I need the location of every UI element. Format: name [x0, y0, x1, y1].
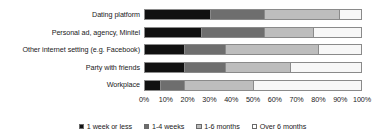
stacked-bar [144, 27, 362, 38]
bar-segment-1-4-weeks [184, 45, 225, 54]
category-label: Dating platform [0, 11, 144, 19]
legend-item-1-week-or-less: 1 week or less [79, 122, 132, 131]
legend-item-1-4-weeks: 1-4 weeks [144, 122, 184, 131]
axis-tick-label: 70% [290, 95, 304, 104]
bar-segment-over-6-months [253, 81, 361, 90]
stacked-bar-chart: Dating platform Personal ad, agency, Min… [0, 0, 385, 140]
bar-segment-1-week-or-less [145, 63, 184, 72]
x-axis: 0% 10% 20% 30% 40% 50% 60% 70% 80% 90% 1… [144, 95, 362, 107]
bar-segment-1-6-months [225, 45, 318, 54]
stacked-bar [144, 80, 362, 91]
bar-segment-1-week-or-less [145, 45, 184, 54]
bar-segment-1-4-weeks [210, 10, 264, 19]
bar-segment-1-week-or-less [145, 81, 160, 90]
stacked-bar [144, 62, 362, 73]
axis-tick-label: 50% [246, 95, 260, 104]
bar-segment-1-week-or-less [145, 10, 210, 19]
legend-item-1-6-months: 1-6 months [196, 122, 239, 131]
chart-row: Party with friends [0, 59, 385, 77]
chart-row: Personal ad, agency, Minitel [0, 24, 385, 42]
chart-legend: 1 week or less 1-4 weeks 1-6 months Over… [0, 122, 385, 131]
stacked-bar [144, 9, 362, 20]
bar-segment-1-4-weeks [184, 63, 225, 72]
category-label: Party with friends [0, 64, 144, 72]
stacked-bar [144, 44, 362, 55]
chart-row: Workplace [0, 76, 385, 94]
bar-segment-1-6-months [184, 81, 253, 90]
plot-area: Dating platform Personal ad, agency, Min… [0, 6, 385, 94]
legend-swatch-icon [196, 124, 202, 130]
legend-swatch-icon [144, 124, 150, 130]
chart-row: Other internet setting (e.g. Facebook) [0, 41, 385, 59]
legend-swatch-icon [252, 124, 258, 130]
axis-tick-label: 0% [139, 95, 149, 104]
bar-segment-over-6-months [313, 28, 361, 37]
axis-tick-label: 40% [224, 95, 238, 104]
legend-item-over-6-months: Over 6 months [252, 122, 307, 131]
legend-label: 1-4 weeks [152, 122, 184, 131]
bar-segment-1-week-or-less [145, 28, 201, 37]
bar-segment-1-6-months [264, 10, 340, 19]
legend-label: Over 6 months [260, 122, 307, 131]
axis-tick-label: 10% [159, 95, 173, 104]
bar-segment-1-4-weeks [201, 28, 264, 37]
bar-segment-over-6-months [318, 45, 361, 54]
axis-tick-label: 80% [311, 95, 325, 104]
chart-row: Dating platform [0, 6, 385, 24]
category-label: Other internet setting (e.g. Facebook) [0, 46, 144, 54]
legend-swatch-icon [79, 124, 85, 130]
category-label: Workplace [0, 81, 144, 89]
bar-segment-1-6-months [264, 28, 314, 37]
bar-segment-over-6-months [339, 10, 361, 19]
axis-tick-label: 20% [181, 95, 195, 104]
legend-label: 1-6 months [204, 122, 239, 131]
axis-tick-label: 60% [268, 95, 282, 104]
bar-segment-1-4-weeks [160, 81, 184, 90]
bar-segment-1-6-months [225, 63, 290, 72]
axis-tick-label: 90% [333, 95, 347, 104]
bar-segment-over-6-months [290, 63, 361, 72]
axis-tick-label: 100% [353, 95, 371, 104]
axis-tick-label: 30% [202, 95, 216, 104]
legend-label: 1 week or less [87, 122, 132, 131]
category-label: Personal ad, agency, Minitel [0, 29, 144, 37]
